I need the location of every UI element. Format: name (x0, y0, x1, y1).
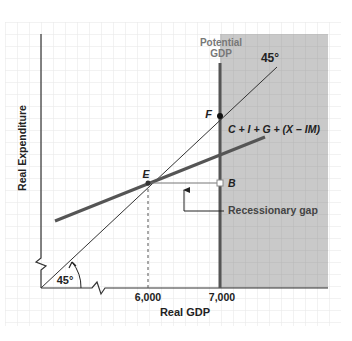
point-f-marker (217, 113, 223, 119)
label-point-b: B (228, 177, 236, 189)
label-recessionary-gap: Recessionary gap (228, 204, 318, 216)
potential-label-line2: GDP (210, 48, 232, 59)
label-point-f: F (205, 108, 212, 120)
x-tick-6000: 6,000 (135, 291, 161, 303)
point-e-marker (146, 181, 151, 186)
shaded-region (220, 34, 328, 288)
y-axis-label: Real Expenditure (16, 105, 28, 191)
potential-label-line1: Potential (200, 37, 242, 48)
label-point-e: E (142, 168, 150, 180)
label-45-bottom: 45° (57, 274, 74, 286)
label-45-top: 45° (261, 51, 279, 65)
chart: Potential GDP 45° F C + I + G + (X – IM)… (0, 0, 352, 341)
label-expenditure: C + I + G + (X – IM) (228, 123, 320, 135)
x-axis-label: Real GDP (160, 306, 210, 318)
point-b-marker (217, 180, 223, 186)
x-tick-7000: 7,000 (209, 291, 235, 303)
